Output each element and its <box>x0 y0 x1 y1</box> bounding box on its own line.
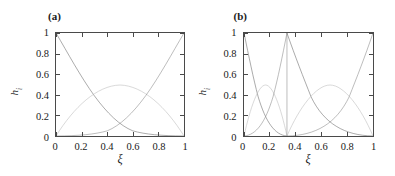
panel-a-xtick-0 <box>56 132 57 136</box>
panel-b-xtick-t06 <box>321 33 322 37</box>
panel-a-xtick-t02 <box>82 33 83 37</box>
panel-b-xtick-1 <box>373 132 374 136</box>
panel-b-xlabel-0: 0 <box>240 141 245 152</box>
panel-b-plot-area <box>243 32 374 137</box>
panel-a-ytick-08 <box>56 54 60 55</box>
panel-b-ylabel-06: 0.6 <box>210 69 237 80</box>
panel-a-ylabel-0: 0 <box>22 132 49 143</box>
panel-b-ytick-r08 <box>369 54 373 55</box>
panel-b-ytick-r0 <box>369 136 373 137</box>
panel-b-ylabel-04: 0.4 <box>210 90 237 101</box>
curve-b-right-bubble <box>286 85 372 136</box>
panel-a-ytick-04 <box>56 95 60 96</box>
panel-a-xtick-04 <box>107 132 108 136</box>
panel-a-curves <box>56 33 184 136</box>
panel-b-xtick-02 <box>269 132 270 136</box>
panel-b-xtick-t02 <box>269 33 270 37</box>
panel-a-xtick-08 <box>158 132 159 136</box>
panel-b-xtick-t0 <box>244 33 245 37</box>
curve-b-left-descending <box>244 33 287 136</box>
y-axis-label-base-b: h <box>196 90 208 96</box>
panel-b-xtick-0 <box>244 132 245 136</box>
panel-b-ylabel-0: 0 <box>210 132 237 143</box>
panel-a-ytick-r04 <box>180 95 184 96</box>
curve-b-left-bubble <box>244 85 287 136</box>
panel-b-xtick-04 <box>295 132 296 136</box>
figure-container: (a) hi <box>0 0 395 176</box>
panel-b-ytick-r02 <box>369 115 373 116</box>
panel-a-xtick-t08 <box>158 33 159 37</box>
panel-b-xlabel-06: 0.6 <box>315 141 328 152</box>
panel-b-xtick-t1 <box>373 33 374 37</box>
panel-a-xlabel-02: 0.2 <box>74 141 87 152</box>
curve-b-right-ascending <box>286 33 372 136</box>
panel-a-ytick-0 <box>56 136 60 137</box>
panel-a-ytick-r02 <box>180 115 184 116</box>
panel-b-ytick-08 <box>244 54 248 55</box>
panel-a-xtick-06 <box>133 132 134 136</box>
panel-a-xlabel-06: 0.6 <box>126 141 139 152</box>
panel-a-ylabel-04: 0.4 <box>22 90 49 101</box>
panel-a-ylabel-1: 1 <box>22 27 49 38</box>
panel-a-ytick-02 <box>56 115 60 116</box>
panel-a-ytick-06 <box>56 74 60 75</box>
panel-b-xlabel-02: 0.2 <box>262 141 275 152</box>
panel-b-xlabel-04: 0.4 <box>288 141 301 152</box>
panel-a-xtick-02 <box>82 132 83 136</box>
panel-b-xlabel-1: 1 <box>371 141 376 152</box>
panel-b: (b) hi <box>198 0 395 176</box>
panel-b-ytick-r04 <box>369 95 373 96</box>
curve-b-right-descending <box>286 33 372 136</box>
panel-a-label: (a) <box>48 10 61 22</box>
panel-b-x-axis-label: ξ <box>305 152 310 167</box>
panel-a-plot-area <box>55 32 185 137</box>
panel-b-xlabel-08: 0.8 <box>341 141 354 152</box>
panel-a-x-axis-label: ξ <box>117 152 122 167</box>
panel-a: (a) hi <box>0 0 198 176</box>
panel-b-xtick-08 <box>347 132 348 136</box>
panel-a-xtick-1 <box>184 132 185 136</box>
panel-b-ylabel-1: 1 <box>210 27 237 38</box>
panel-b-ytick-04 <box>244 95 248 96</box>
panel-a-ylabel-06: 0.6 <box>22 69 49 80</box>
curve-a-ascending <box>56 33 184 136</box>
panel-a-xtick-t0 <box>56 33 57 37</box>
panel-a-ytick-r0 <box>180 136 184 137</box>
panel-a-ytick-r08 <box>180 54 184 55</box>
panel-b-ytick-06 <box>244 74 248 75</box>
panel-a-ylabel-08: 0.8 <box>22 48 49 59</box>
panel-a-ytick-r06 <box>180 74 184 75</box>
panel-b-ylabel-02: 0.2 <box>210 111 237 122</box>
panel-a-ylabel-02: 0.2 <box>22 111 49 122</box>
panel-a-xtick-t06 <box>133 33 134 37</box>
panel-b-xtick-t08 <box>347 33 348 37</box>
panel-b-xtick-t04 <box>295 33 296 37</box>
curve-a-bubble <box>56 85 184 136</box>
curve-a-descending <box>56 33 184 136</box>
panel-a-xlabel-1: 1 <box>182 141 187 152</box>
panel-b-label: (b) <box>234 10 247 22</box>
panel-a-xlabel-04: 0.4 <box>100 141 113 152</box>
panel-b-ytick-0 <box>244 136 248 137</box>
panel-b-ytick-r06 <box>369 74 373 75</box>
panel-b-xtick-06 <box>321 132 322 136</box>
curve-b-left-ascending <box>244 33 287 136</box>
panel-b-ylabel-08: 0.8 <box>210 48 237 59</box>
panel-b-curves <box>244 33 373 136</box>
panel-a-xlabel-08: 0.8 <box>152 141 165 152</box>
panel-b-ytick-02 <box>244 115 248 116</box>
panel-a-xtick-t1 <box>184 33 185 37</box>
y-axis-label-base: h <box>8 90 20 96</box>
panel-a-xtick-t04 <box>107 33 108 37</box>
panel-a-xlabel-0: 0 <box>52 141 57 152</box>
